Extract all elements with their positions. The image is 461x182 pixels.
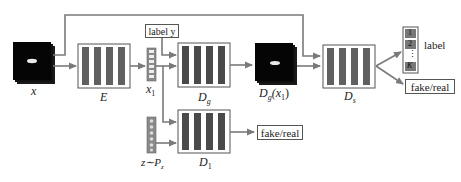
arrow-label-to-generator bbox=[162, 37, 176, 55]
discriminator-s-block bbox=[323, 45, 375, 88]
latent-label-sub: 1 bbox=[151, 89, 155, 98]
latent-label: x1 bbox=[146, 82, 155, 98]
generated-image-label: Dg(x1) bbox=[259, 86, 289, 102]
generator-label: Dg bbox=[198, 90, 211, 106]
fake-real-top-box: fake/real bbox=[405, 79, 455, 94]
diagram-graphics bbox=[0, 0, 461, 182]
label-y-box: label y bbox=[145, 24, 179, 38]
noise-label: z∼Pz bbox=[141, 156, 164, 171]
fake-real-bottom-text: fake/real bbox=[261, 127, 299, 139]
input-image-label: x bbox=[31, 84, 36, 99]
class-output-label: label bbox=[424, 39, 445, 51]
diagram-canvas: x E x1 label y Dg Dg(x1) Ds 1 2 ⋮ K labe… bbox=[0, 0, 461, 182]
discriminator-1-block bbox=[178, 110, 230, 153]
latent-vector bbox=[147, 48, 156, 81]
d1-label-main: D bbox=[199, 155, 208, 169]
noise-label-sub: z bbox=[161, 163, 164, 171]
encoder-label: E bbox=[100, 90, 107, 105]
generator-label-sub: g bbox=[207, 97, 211, 106]
ds-label-main: D bbox=[344, 89, 353, 103]
class-item-2: 2 bbox=[408, 39, 412, 48]
class-item-1: 1 bbox=[408, 28, 412, 37]
noise-label-main: z∼P bbox=[141, 156, 161, 168]
discriminator-1-label: D1 bbox=[199, 155, 212, 171]
class-item-ellipsis: ⋮ bbox=[408, 49, 417, 59]
fake-real-top-text: fake/real bbox=[411, 81, 449, 93]
generated-image bbox=[255, 43, 297, 85]
generator-label-main: D bbox=[198, 90, 207, 104]
arrow-latent-to-d1 bbox=[163, 66, 176, 122]
fake-real-bottom-box: fake/real bbox=[257, 125, 303, 140]
encoder-block bbox=[78, 44, 130, 88]
class-item-k: K bbox=[407, 61, 412, 70]
ds-label-sub: s bbox=[353, 96, 356, 105]
discriminator-s-label: Ds bbox=[344, 89, 356, 105]
noise-vector bbox=[147, 117, 156, 153]
label-y-text: label y bbox=[149, 26, 176, 37]
gen-image-label-main: D bbox=[259, 86, 268, 100]
input-image bbox=[13, 42, 55, 84]
gen-image-label-close: ) bbox=[285, 86, 289, 100]
arrow-ds-to-label bbox=[376, 52, 401, 66]
d1-label-sub: 1 bbox=[208, 162, 212, 171]
arrow-ds-to-fake-real bbox=[376, 66, 403, 84]
generator-block bbox=[178, 43, 230, 87]
gen-image-label-arg: (x bbox=[272, 86, 281, 100]
